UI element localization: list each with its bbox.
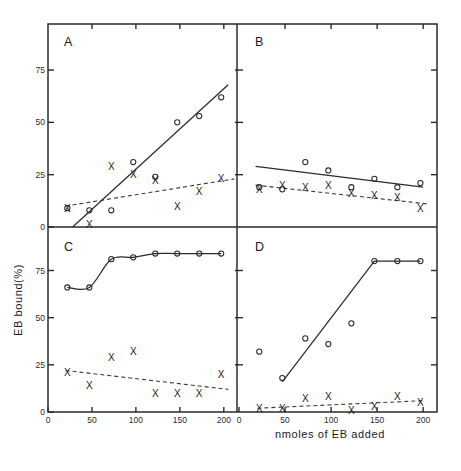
data-point-cross-d: X (325, 391, 332, 402)
panel-d: DXXXXXXXX (255, 240, 424, 416)
data-point-cross-c: X (108, 352, 115, 363)
panel-label-a: A (64, 35, 73, 49)
data-point-circle-b (395, 185, 400, 190)
four-panel-scatter-figure: 05010015020005010015020002550750255075AX… (0, 0, 461, 471)
data-point-cross-c: X (64, 367, 71, 378)
data-point-cross-a: X (130, 169, 137, 180)
data-point-circle-a (109, 208, 114, 213)
panel-label-d: D (255, 240, 264, 254)
x-ticklabel-C-100: 100 (129, 415, 143, 425)
data-point-cross-b: X (279, 180, 286, 191)
data-point-cross-d: X (371, 401, 378, 412)
x-ticklabel-C-150: 150 (173, 415, 187, 425)
data-point-cross-d: X (279, 403, 286, 414)
y-ticklabel-C-0: 0 (40, 407, 45, 417)
panel-b: BXXXXXXXX (255, 35, 428, 214)
data-point-cross-d: X (348, 405, 355, 416)
data-point-cross-b: X (417, 203, 424, 214)
data-point-cross-b: X (325, 180, 332, 191)
data-point-cross-a: X (64, 203, 71, 214)
data-point-circle-d (257, 349, 262, 354)
data-point-circle-b (418, 180, 423, 185)
fit-line-solid-d (282, 261, 420, 382)
y-ticklabel-C-75: 75 (36, 266, 46, 276)
data-point-cross-b: X (371, 190, 378, 201)
y-ticklabel-C-50: 50 (36, 313, 46, 323)
x-ticklabel-D-100: 100 (324, 415, 338, 425)
y-ticklabel-A-75: 75 (36, 65, 46, 75)
data-point-cross-c: X (86, 380, 93, 391)
x-ticklabel-C-50: 50 (87, 415, 97, 425)
fit-curve-solid-c (67, 253, 221, 289)
y-ticklabel-A-25: 25 (36, 170, 46, 180)
data-point-cross-b: X (394, 192, 401, 203)
data-point-cross-d: X (394, 391, 401, 402)
data-point-cross-c: X (152, 388, 159, 399)
data-point-cross-c: X (196, 388, 203, 399)
figure-container: 05010015020005010015020002550750255075AX… (0, 0, 461, 471)
x-ticklabel-C-200: 200 (217, 415, 231, 425)
data-point-cross-a: X (196, 186, 203, 197)
data-point-circle-a (175, 120, 180, 125)
panel-label-b: B (255, 35, 263, 49)
x-ticklabel-C-0: 0 (46, 415, 51, 425)
data-point-circle-d (303, 336, 308, 341)
y-ticklabel-A-50: 50 (36, 117, 46, 127)
fit-line-solid-a (73, 85, 229, 227)
x-ticklabel-D-150: 150 (370, 415, 384, 425)
data-point-cross-d: X (417, 397, 424, 408)
data-point-cross-b: X (302, 182, 309, 193)
data-point-cross-d: X (302, 393, 309, 404)
data-point-circle-a (219, 95, 224, 100)
data-point-cross-c: X (174, 388, 181, 399)
data-point-circle-b (303, 160, 308, 165)
x-ticklabel-D-50: 50 (280, 415, 290, 425)
data-point-cross-c: X (130, 346, 137, 357)
panel-a: AXXXXXXXX (64, 35, 234, 230)
data-point-cross-a: X (152, 175, 159, 186)
data-point-cross-b: X (348, 188, 355, 199)
data-point-cross-c: X (218, 369, 225, 380)
data-point-cross-d: X (256, 403, 263, 414)
data-point-cross-b: X (256, 184, 263, 195)
y-ticklabel-C-25: 25 (36, 360, 46, 370)
y-ticklabel-A-0: 0 (40, 222, 45, 232)
data-point-circle-d (326, 341, 331, 346)
x-axis-title: nmoles of EB added (275, 428, 385, 440)
x-ticklabel-D-200: 200 (416, 415, 430, 425)
fit-line-dashed-a (66, 179, 235, 206)
data-point-circle-b (326, 168, 331, 173)
data-point-circle-a (197, 113, 202, 118)
data-point-circle-d (349, 321, 354, 326)
data-point-circle-d (280, 375, 285, 380)
data-point-cross-a: X (218, 173, 225, 184)
data-point-circle-a (131, 160, 136, 165)
data-point-cross-a: X (174, 201, 181, 212)
y-axis-title: EB bound(%) (12, 264, 24, 336)
x-ticklabel-D-0: 0 (237, 415, 242, 425)
panel-c: CXXXXXXXX (64, 240, 228, 399)
data-point-cross-a: X (108, 161, 115, 172)
panel-label-c: C (64, 240, 73, 254)
figure-outer-frame (48, 24, 437, 412)
data-point-cross-a: X (86, 219, 93, 230)
